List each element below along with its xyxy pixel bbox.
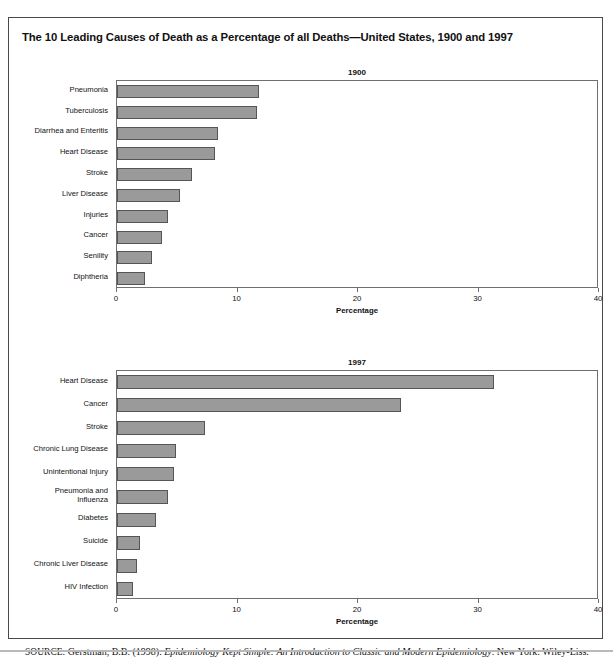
bar	[117, 85, 259, 98]
axis-tick	[598, 288, 599, 292]
category-label: Stroke	[9, 168, 108, 177]
figure-caption: FIGURE 1	[9, 0, 72, 2]
axis-tick-label: 0	[101, 294, 131, 303]
axis-tick	[357, 288, 358, 292]
category-label: Diarrhea and Enteritis	[9, 126, 108, 135]
source-label: SOURCE:	[25, 647, 65, 657]
chart-title: 1997	[116, 358, 598, 367]
category-label: Tuberculosis	[9, 106, 108, 115]
category-label: Diabetes	[9, 513, 108, 522]
axis-tick-label: 10	[222, 605, 252, 614]
axis-tick	[237, 288, 238, 292]
chart-title: 1900	[116, 68, 598, 77]
bottom-rule	[0, 650, 613, 652]
axis-tick-label: 20	[342, 605, 372, 614]
bar	[117, 127, 218, 140]
axis-tick-label: 40	[583, 294, 613, 303]
category-label: Diphtheria	[9, 272, 108, 281]
category-label: Chronic Liver Disease	[9, 559, 108, 568]
category-label: Liver Disease	[9, 189, 108, 198]
bar	[117, 210, 168, 223]
axis-tick-label: 20	[342, 294, 372, 303]
bar	[117, 421, 205, 435]
category-label: Heart Disease	[9, 376, 108, 385]
bar	[117, 398, 401, 412]
axis-tick-label: 40	[583, 605, 613, 614]
category-label: Pneumonia andInfluenza	[9, 486, 108, 505]
category-label: HIV Infection	[9, 582, 108, 591]
bar	[117, 582, 133, 596]
bar	[117, 272, 145, 285]
axis-tick	[478, 288, 479, 292]
bar	[117, 147, 215, 160]
bar	[117, 375, 494, 389]
x-axis-title: Percentage	[116, 306, 598, 315]
bar	[117, 106, 257, 119]
category-label: Cancer	[9, 399, 108, 408]
axis-tick	[116, 288, 117, 292]
axis-tick	[478, 599, 479, 603]
plot-area	[116, 80, 598, 288]
bar	[117, 536, 140, 550]
category-label: Senility	[9, 251, 108, 260]
figure-page: FIGURE 1 The 10 Leading Causes of Death …	[0, 0, 613, 657]
bar	[117, 467, 174, 481]
axis-tick	[237, 599, 238, 603]
category-label: Cancer	[9, 230, 108, 239]
category-label: Injuries	[9, 210, 108, 219]
category-label: Heart Disease	[9, 147, 108, 156]
axis-tick	[598, 599, 599, 603]
category-label: Pneumonia	[9, 85, 108, 94]
x-axis-title: Percentage	[116, 617, 598, 626]
figure-frame: The 10 Leading Causes of Death as a Perc…	[8, 17, 603, 639]
axis-tick-label: 30	[463, 294, 493, 303]
bar	[117, 189, 180, 202]
axis-tick	[116, 599, 117, 603]
bar	[117, 490, 168, 504]
category-label: Suicide	[9, 536, 108, 545]
axis-tick-label: 10	[222, 294, 252, 303]
plot-area	[116, 370, 598, 599]
axis-tick-label: 30	[463, 605, 493, 614]
bar	[117, 513, 156, 527]
figure-title: The 10 Leading Causes of Death as a Perc…	[22, 31, 513, 43]
category-label: Stroke	[9, 422, 108, 431]
bar	[117, 231, 162, 244]
bar	[117, 444, 176, 458]
bar	[117, 168, 192, 181]
bar	[117, 251, 152, 264]
category-label: Unintentional Injury	[9, 467, 108, 476]
category-label: Chronic Lung Disease	[9, 444, 108, 453]
axis-tick	[357, 599, 358, 603]
axis-tick-label: 0	[101, 605, 131, 614]
bar	[117, 559, 137, 573]
